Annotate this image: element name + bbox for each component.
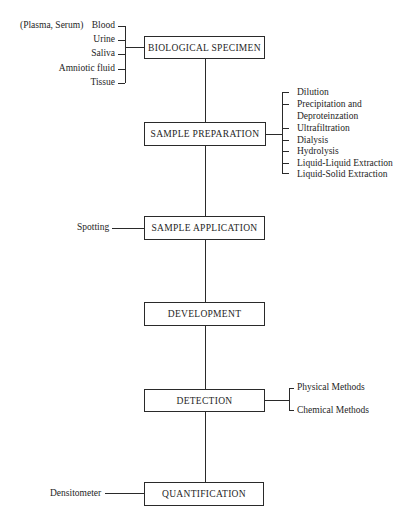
detection-method: Physical Methods [297,382,365,393]
specimen-source: Tissue [91,77,115,88]
detection-bracket [289,388,290,411]
bracket-tick [289,388,294,389]
specimen-bracket-link [125,47,144,48]
stage-label: BIOLOGICAL SPECIMEN [148,43,261,53]
quantification-link [105,493,144,494]
specimen-source: Urine [93,34,115,45]
bracket-tick [282,92,289,93]
stage-biological-specimen: BIOLOGICAL SPECIMEN [144,36,265,59]
bracket-tick [289,410,294,411]
stage-quantification: QUANTIFICATION [144,482,264,506]
preparation-method: Deproteinzation [297,111,358,122]
bracket-tick [282,163,289,164]
preparation-method: Liquid-Liquid Extraction [297,158,393,169]
specimen-source: Amniotic fluid [59,63,115,74]
preparation-method: Dilution [297,87,329,98]
specimen-bracket [125,26,126,83]
stage-sample-preparation: SAMPLE PREPARATION [144,122,266,146]
quantification-method: Densitometer [50,488,101,499]
stage-label: DETECTION [177,396,233,406]
specimen-source: Saliva [91,48,115,59]
bracket-tick [282,128,289,129]
bracket-tick [118,54,125,55]
bracket-tick [118,40,125,41]
stage-label: SAMPLE PREPARATION [151,129,260,139]
preparation-bracket-link [266,134,282,135]
stage-label: DEVELOPMENT [168,309,242,319]
preparation-method: Liquid-Solid Extraction [297,169,388,180]
stage-label: SAMPLE APPLICATION [152,223,258,233]
preparation-method: Ultrafiltration [297,123,350,134]
bracket-tick [118,26,125,27]
bracket-tick [282,104,289,105]
stage-detection: DETECTION [144,389,265,412]
specimen-prefix: (Plasma, Serum) [20,20,83,31]
specimen-source: Blood [92,20,115,31]
preparation-method: Hydrolysis [297,146,339,157]
stage-sample-application: SAMPLE APPLICATION [144,216,265,240]
stage-label: QUANTIFICATION [162,489,246,499]
application-method: Spotting [77,222,109,233]
application-link [112,228,144,229]
preparation-method: Dialysis [297,135,328,146]
bracket-tick [118,83,125,84]
bracket-tick [118,69,125,70]
detection-method: Chemical Methods [297,405,369,416]
detection-bracket-link [265,400,289,401]
bracket-tick [282,140,289,141]
stage-development: DEVELOPMENT [144,302,265,326]
bracket-tick [282,173,289,174]
bracket-tick [282,151,289,152]
preparation-method: Precipitation and [297,99,362,110]
